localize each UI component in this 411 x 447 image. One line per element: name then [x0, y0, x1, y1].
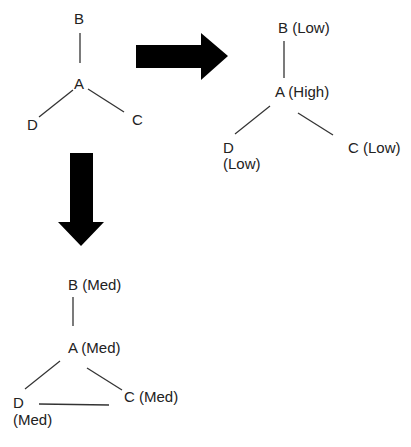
node-a-label: A [74, 75, 84, 92]
diagram-canvas: B A D C B (Low) A (High) D (Low) C (Low)… [0, 0, 411, 447]
edge-d-c [39, 404, 109, 405]
node-d-level: (Med) [13, 411, 52, 428]
node-d-label: D [27, 116, 38, 133]
edge-a-d [25, 361, 60, 389]
edge-a-c [298, 113, 333, 135]
bottom-graph: B (Med) A (Med) D (Med) C (Med) [13, 276, 178, 428]
edge-a-d [39, 90, 73, 117]
node-a-label: A (Med) [68, 339, 121, 356]
node-d-label: D [13, 394, 24, 411]
node-a-label: A (High) [275, 83, 329, 100]
node-d-level: (Low) [223, 155, 261, 172]
node-c-label: C [132, 111, 143, 128]
node-d-label: D [223, 139, 234, 156]
edge-a-d [235, 106, 270, 134]
node-c-label: C (Low) [348, 139, 401, 156]
down-arrow-icon [58, 153, 104, 246]
right-arrow-icon [136, 33, 228, 80]
edge-a-c [87, 368, 122, 390]
right-graph: B (Low) A (High) D (Low) C (Low) [223, 19, 401, 172]
node-b-label: B [74, 10, 84, 27]
edge-a-c [88, 89, 124, 112]
node-b-label: B (Med) [68, 276, 121, 293]
node-b-label: B (Low) [278, 19, 330, 36]
initial-graph: B A D C [27, 10, 143, 133]
node-c-label: C (Med) [124, 388, 178, 405]
